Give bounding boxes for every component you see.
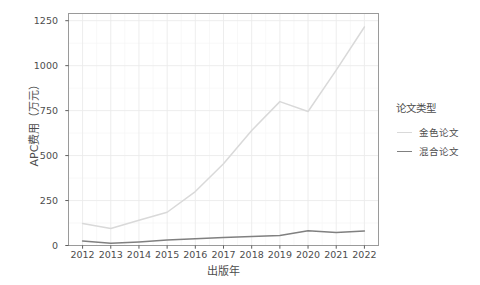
legend-item-hybrid[interactable]: 混合论文 bbox=[396, 142, 480, 159]
legend-item-gold[interactable]: 金色论文 bbox=[396, 123, 480, 140]
legend-swatch-hybrid bbox=[396, 142, 413, 159]
legend-label-hybrid: 混合论文 bbox=[419, 144, 459, 158]
legend: 论文类型 金色论文 混合论文 bbox=[396, 100, 480, 161]
line-chart: APC费用（万元） 出版年 0 250 500 750 1000 1250 20… bbox=[0, 0, 480, 285]
legend-label-gold: 金色论文 bbox=[419, 125, 459, 139]
legend-swatch-gold bbox=[396, 123, 413, 140]
legend-title: 论文类型 bbox=[396, 100, 480, 115]
